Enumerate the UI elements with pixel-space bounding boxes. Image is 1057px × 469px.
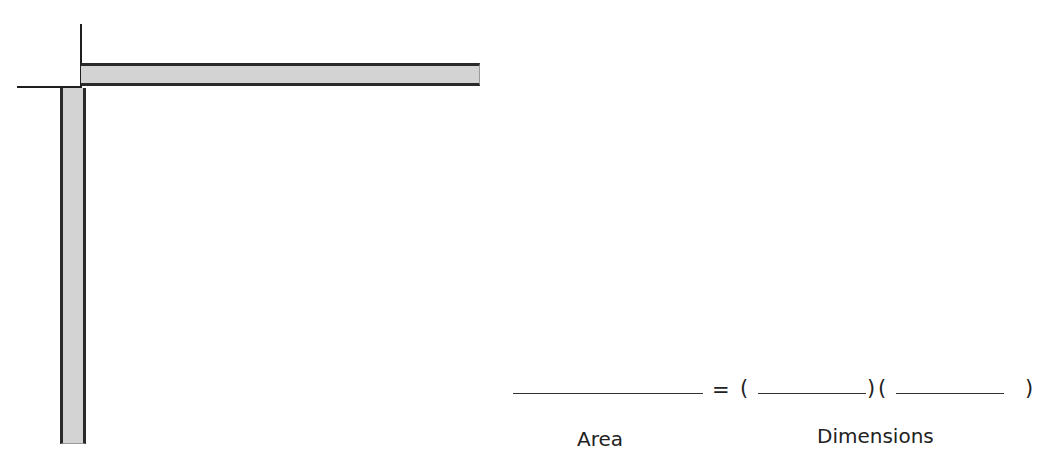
area-label: Area xyxy=(577,427,623,451)
close-paren-2: ) xyxy=(1025,378,1033,399)
open-paren-1: ( xyxy=(740,378,748,399)
dimensions-label: Dimensions xyxy=(817,424,934,448)
dimension-blank-1[interactable] xyxy=(758,393,866,394)
equals-sign: = xyxy=(712,380,730,401)
top-shaded-strip xyxy=(81,63,480,86)
left-shaded-strip xyxy=(60,88,86,444)
dimension-blank-2[interactable] xyxy=(896,393,1004,394)
area-answer-blank[interactable] xyxy=(513,393,703,394)
open-paren-2: ( xyxy=(878,378,886,399)
close-paren-1: ) xyxy=(867,378,875,399)
